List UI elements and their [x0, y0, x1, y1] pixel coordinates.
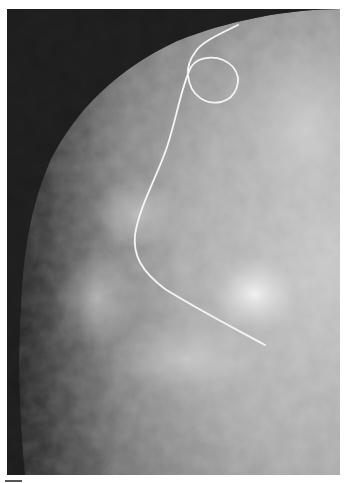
dense-mass [210, 256, 300, 332]
mammogram-graphic [7, 9, 340, 475]
scale-marker [5, 480, 22, 482]
mammogram-image [7, 9, 340, 475]
